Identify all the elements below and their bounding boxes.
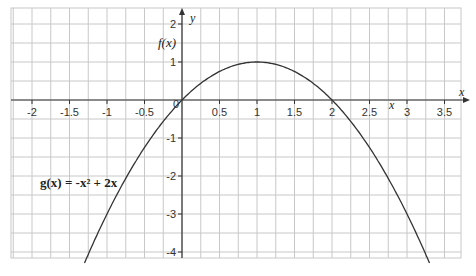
x-tick-label: 3.5 — [437, 106, 452, 118]
x-tick-label: 2.5 — [362, 106, 377, 118]
x-tick-label: -1 — [102, 106, 112, 118]
x-tick-label: 2 — [329, 106, 335, 118]
y-tick-label: -3 — [166, 208, 176, 220]
x-tick-label: 0.5 — [212, 106, 227, 118]
x-tick-label: -1.5 — [60, 106, 79, 118]
y-tick-label: 1 — [170, 56, 176, 68]
y-tick-label: -4 — [166, 246, 176, 258]
x-tick-label: 3 — [404, 106, 410, 118]
y-tick-labels: 21-1-2-3-4 — [166, 18, 176, 258]
x-tick-label: -2 — [27, 106, 37, 118]
function-label: g(x) = -x² + 2x — [40, 175, 118, 190]
x-tick-label: 0 — [173, 98, 179, 110]
x-tick-label: 1 — [254, 106, 260, 118]
y-tick-label: -1 — [166, 132, 176, 144]
x-axis-inner-label: x — [388, 98, 395, 112]
fx-label: f(x) — [158, 35, 176, 50]
x-tick-label: -0.5 — [135, 106, 154, 118]
chart: -2-1.5-1-0.500.511.522.533.5 21-1-2-3-4 … — [0, 0, 476, 276]
grid — [11, 8, 461, 258]
x-axis-label: x — [458, 85, 465, 99]
axes — [11, 8, 470, 258]
y-tick-label: 2 — [170, 18, 176, 30]
y-tick-label: -2 — [166, 170, 176, 182]
x-tick-label: 1.5 — [287, 106, 302, 118]
y-axis-label: y — [189, 11, 196, 25]
